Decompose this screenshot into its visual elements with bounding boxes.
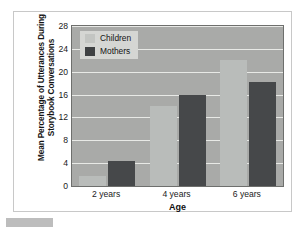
chart-legend: Children Mothers: [80, 31, 138, 59]
chart-figure: Mean Percentage of Utterances During Sto…: [13, 11, 292, 212]
bar-mothers-2-years: [108, 161, 135, 186]
y-tick-label: 4: [63, 159, 68, 168]
x-tick-label: 4 years: [162, 189, 190, 199]
x-tick-label: 6 years: [233, 189, 261, 199]
y-tick-label: 24: [58, 45, 68, 54]
y-axis-tick-labels: 0481216202428: [52, 25, 68, 187]
y-tick-label: 20: [58, 67, 68, 76]
bar-mothers-6-years: [249, 82, 276, 186]
legend-item-children: Children: [85, 34, 131, 43]
legend-swatch-mothers-icon: [85, 47, 95, 56]
legend-label-mothers: Mothers: [100, 47, 130, 56]
bar-children-2-years: [79, 176, 106, 186]
bar-children-6-years: [220, 60, 247, 186]
x-axis-tick-labels: 2 years4 years6 years: [71, 189, 284, 201]
legend-label-children: Children: [100, 34, 131, 43]
y-tick-label: 0: [63, 182, 68, 191]
y-tick-label: 16: [58, 90, 68, 99]
x-axis-title: Age: [71, 202, 284, 212]
y-tick-label: 12: [58, 113, 68, 122]
bar-mothers-4-years: [179, 95, 206, 186]
legend-item-mothers: Mothers: [85, 47, 131, 56]
x-tick-label: 2 years: [92, 189, 120, 199]
y-tick-label: 8: [63, 136, 68, 145]
plot-area: Children Mothers: [71, 25, 284, 187]
caption-placeholder-bar: [6, 218, 53, 227]
y-tick-label: 28: [58, 22, 68, 31]
bar-children-4-years: [150, 106, 177, 186]
legend-swatch-children-icon: [85, 34, 95, 43]
